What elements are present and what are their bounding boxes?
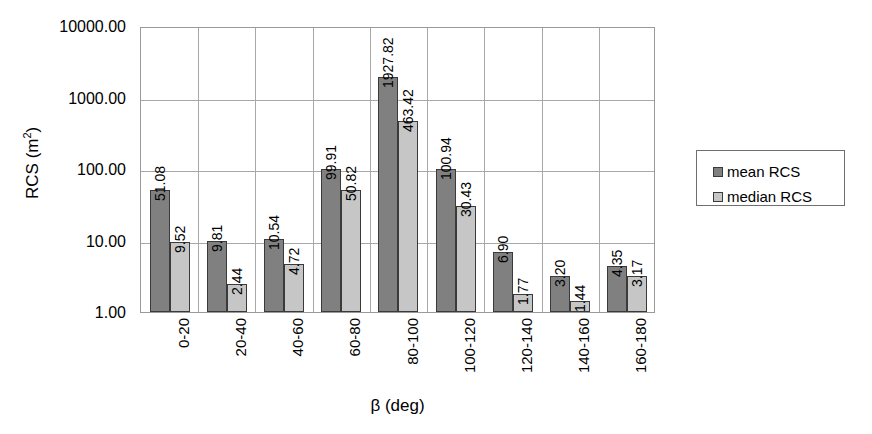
legend: mean RCSmedian RCS xyxy=(696,150,845,206)
bar-value-label: 51.08 xyxy=(153,166,167,201)
x-axis-tick-label: 20-40 xyxy=(233,318,248,356)
legend-item[interactable]: median RCS xyxy=(713,189,812,204)
bar-group: 10.544.72 xyxy=(255,28,312,312)
x-axis-tick-label: 100-120 xyxy=(462,318,477,373)
x-axis-tick-label: 120-140 xyxy=(519,318,534,373)
bar-value-label: 50.82 xyxy=(344,166,358,201)
bar-value-label: 463.42 xyxy=(401,90,415,133)
x-axis-tick-label: 0-20 xyxy=(176,318,191,348)
x-axis-tick-label: 140-160 xyxy=(576,318,591,373)
legend-swatch-icon xyxy=(713,192,723,202)
bar-value-label: 30.43 xyxy=(459,182,473,217)
bar-value-label: 6.90 xyxy=(496,236,510,263)
plot-area: 51.089.529.812.4410.544.7299.9150.821927… xyxy=(140,27,655,313)
bar-group: 9.812.44 xyxy=(198,28,255,312)
bar-value-label: 100.94 xyxy=(439,137,453,180)
bar-value-label: 9.81 xyxy=(210,225,224,252)
bar-value-label: 3.20 xyxy=(553,260,567,287)
y-axis-tick-labels: 10000.001000.00100.0010.001.00 xyxy=(10,27,134,313)
bar-value-label: 1.77 xyxy=(516,278,530,305)
bar xyxy=(150,190,170,312)
y-axis-tick-label: 10000.00 xyxy=(59,19,126,35)
rcs-bar-chart: RCS (m2) 10000.001000.00100.0010.001.00 … xyxy=(0,0,872,434)
x-axis-tick-label: 60-80 xyxy=(347,318,362,356)
y-axis-tick-label: 100.00 xyxy=(77,162,126,178)
bar xyxy=(378,77,398,312)
bar-value-label: 4.72 xyxy=(287,248,301,275)
legend-swatch-icon xyxy=(713,167,723,177)
bar-value-label: 4.35 xyxy=(610,250,624,277)
bar-value-label: 9.52 xyxy=(173,226,187,253)
bar xyxy=(321,169,341,312)
bar-group: 4.353.17 xyxy=(599,28,656,312)
bar xyxy=(436,169,456,312)
y-axis-tick-label: 1.00 xyxy=(95,305,126,321)
y-axis-tick-label: 10.00 xyxy=(86,234,126,250)
y-axis-tick-label: 1000.00 xyxy=(68,91,126,107)
bar-group: 51.089.52 xyxy=(141,28,198,312)
bar-group: 99.9150.82 xyxy=(313,28,370,312)
bar-group: 6.901.77 xyxy=(484,28,541,312)
x-axis-tick-label: 40-60 xyxy=(290,318,305,356)
bar-value-label: 2.44 xyxy=(230,268,244,295)
bar-value-label: 3.17 xyxy=(630,260,644,287)
x-axis-tick-labels: 0-2020-4040-6060-8080-100100-120120-1401… xyxy=(140,318,655,388)
bar xyxy=(341,190,361,312)
legend-item-label: median RCS xyxy=(727,189,812,204)
bar-group: 3.201.44 xyxy=(542,28,599,312)
bar-value-label: 1.44 xyxy=(573,284,587,311)
bar-group: 100.9430.43 xyxy=(427,28,484,312)
x-axis-tick-label: 160-180 xyxy=(633,318,648,373)
bar-value-label: 10.54 xyxy=(267,215,281,250)
bar-value-label: 99.91 xyxy=(324,145,338,180)
bar xyxy=(398,121,418,312)
legend-item[interactable]: mean RCS xyxy=(713,164,800,179)
bar-value-label: 1927.82 xyxy=(381,38,395,89)
legend-item-label: mean RCS xyxy=(727,164,800,179)
x-axis-title: β (deg) xyxy=(140,396,655,416)
bar-group: 1927.82463.42 xyxy=(370,28,427,312)
bar xyxy=(456,206,476,312)
x-axis-tick-label: 80-100 xyxy=(405,318,420,365)
